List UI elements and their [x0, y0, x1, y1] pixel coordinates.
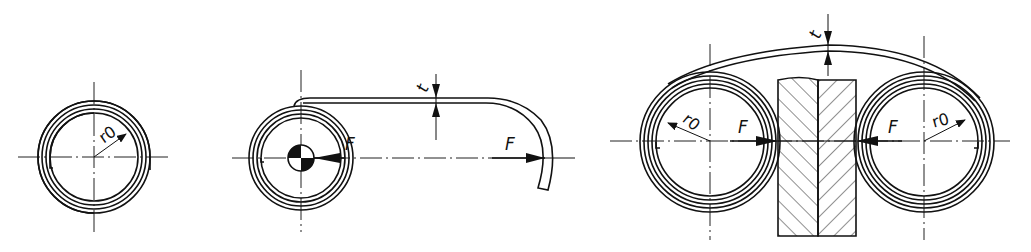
thickness-dimension — [432, 74, 440, 140]
force-label-right: F — [888, 117, 898, 137]
force-label-drum: F — [345, 134, 355, 154]
view-extended-spring: F F t — [232, 70, 575, 232]
centre-of-mass-icon — [288, 145, 314, 171]
force-arrow-end — [492, 153, 545, 163]
force-arrow-left — [730, 136, 778, 146]
force-label-end: F — [505, 134, 515, 154]
radius-label-left: r0 — [679, 109, 704, 134]
thickness-label: t — [805, 27, 827, 41]
spring-technical-drawing: r0 F F — [0, 0, 1031, 252]
pressing-plates — [778, 78, 856, 237]
view-twin-coils: r0 F r0 F — [610, 14, 1010, 240]
thickness-label: t — [412, 80, 434, 94]
radius-label: r0 — [95, 122, 120, 147]
force-label-left: F — [738, 117, 748, 137]
view-free-spring: r0 — [18, 82, 172, 232]
